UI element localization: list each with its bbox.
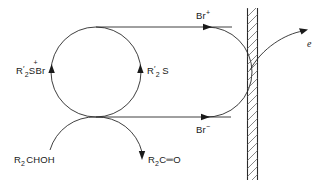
bromine-cation-base: Br bbox=[196, 10, 206, 21]
arrowhead-bromine-cation bbox=[203, 24, 212, 30]
electrode-hatching bbox=[240, 0, 262, 187]
alcohol-oxidation-arc bbox=[50, 117, 142, 152]
mediator-reduced-tail: Br bbox=[35, 65, 45, 76]
ketone-tail: O bbox=[173, 154, 181, 165]
label-mediator-oxidized: R′2S bbox=[147, 64, 169, 78]
scheme-canvas: R′2SBr + R′2S Br+ Br− R2CHOH bbox=[0, 0, 335, 187]
label-bromide-anion: Br− bbox=[196, 123, 210, 135]
ketone-bond: ═ bbox=[165, 154, 173, 165]
alcohol-tail: CHOH bbox=[26, 154, 55, 165]
mediator-cycle-circle bbox=[51, 27, 141, 117]
svg-text:Br−: Br− bbox=[196, 123, 210, 135]
bromine-cation-charge: + bbox=[206, 9, 210, 16]
label-electron: e bbox=[307, 38, 312, 49]
bromide-anion-charge: − bbox=[206, 123, 210, 130]
ketone-base: R bbox=[148, 154, 155, 165]
mediator-oxidized-base: R bbox=[147, 65, 154, 76]
mediator-oxidized-center: S bbox=[162, 65, 169, 76]
mediator-reduced-charge: + bbox=[34, 59, 38, 66]
electrode-bar bbox=[240, 0, 262, 187]
svg-text:R′2SBr: R′2SBr bbox=[16, 64, 45, 78]
arrowhead-bromide-anion bbox=[201, 114, 210, 120]
svg-text:R2C═O: R2C═O bbox=[148, 154, 181, 167]
label-bromine-cation: Br+ bbox=[196, 9, 210, 21]
alcohol-sub: 2 bbox=[21, 160, 25, 167]
mediator-oxidized-sub: 2 bbox=[156, 71, 160, 78]
alcohol-base: R bbox=[14, 154, 21, 165]
label-ketone-product: R2C═O bbox=[148, 154, 181, 167]
electrode-interface-arc bbox=[205, 27, 252, 117]
reaction-scheme-diagram: R′2SBr + R′2S Br+ Br− R2CHOH bbox=[0, 0, 335, 187]
svg-text:Br+: Br+ bbox=[196, 9, 210, 21]
arrowhead-ketone-product bbox=[139, 151, 145, 160]
svg-text:R2CHOH: R2CHOH bbox=[14, 154, 55, 167]
ketone-mid: C bbox=[159, 154, 166, 165]
mediator-reduced-base: R bbox=[16, 65, 23, 76]
label-alcohol-reactant: R2CHOH bbox=[14, 154, 55, 167]
bromide-anion-base: Br bbox=[196, 124, 206, 135]
svg-text:R′2S: R′2S bbox=[147, 64, 169, 78]
arrowhead-mediator-release bbox=[137, 64, 143, 73]
arrowhead-mediator-uptake bbox=[48, 64, 54, 73]
arrowhead-electron bbox=[299, 28, 308, 34]
label-mediator-reduced: R′2SBr + bbox=[16, 59, 45, 78]
